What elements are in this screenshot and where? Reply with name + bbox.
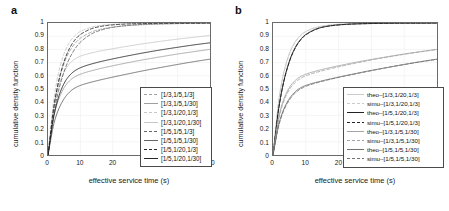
legend-label: simu–[1/3,1/5,1/30] xyxy=(366,136,420,145)
legend-line-swatch xyxy=(143,154,160,163)
y-tick-label: 0.8 xyxy=(22,45,44,52)
y-tick-label: 0 xyxy=(22,152,44,159)
legend-label: [1/5,1/20,1/30] xyxy=(160,154,201,163)
panel-a-x-axis-label: effective service time (s) xyxy=(47,176,211,185)
y-tick-label: 0.4 xyxy=(247,98,269,105)
legend-line-swatch xyxy=(346,127,366,136)
legend-line-swatch xyxy=(143,136,160,145)
legend-entry[interactable]: [1/3,1/20,1/3] xyxy=(143,108,208,117)
legend-label: theo–[1/3,1/5,1/30] xyxy=(366,127,419,136)
x-tick-label: 0 xyxy=(39,159,55,166)
legend-label: simu–[1/3,1/20,1/3] xyxy=(366,99,420,108)
legend-entry[interactable]: [1/5,1/5,1/3] xyxy=(143,127,208,136)
legend-entry[interactable]: simu–[1/5,1/5,1/30] xyxy=(346,154,440,163)
legend-label: [1/3,1/20,1/30] xyxy=(160,118,201,127)
legend-label: theo–[1/5,1/5,1/30] xyxy=(366,145,419,154)
legend-line-swatch xyxy=(346,118,366,127)
y-tick-label: 0.8 xyxy=(247,45,269,52)
legend-label: theo–[1/5,1/20,1/3] xyxy=(366,108,419,117)
y-tick-label: 0 xyxy=(247,152,269,159)
y-tick-label: 0.1 xyxy=(22,139,44,146)
legend-entry[interactable]: simu–[1/5,1/20,1/3] xyxy=(346,118,440,127)
legend-label: [1/5,1/5,1/30] xyxy=(160,136,198,145)
legend-label: [1/5,1/5,1/3] xyxy=(160,127,194,136)
y-tick-label: 0.4 xyxy=(22,98,44,105)
legend-entry[interactable]: [1/5,1/20,1/3] xyxy=(143,145,208,154)
y-tick-label: 0.6 xyxy=(247,72,269,79)
legend-line-swatch xyxy=(346,154,366,163)
figure-cdf-comparison: a cumulative density function 00.10.20.3… xyxy=(0,0,449,211)
panel-a-label: a xyxy=(11,4,17,16)
y-tick-label: 0.1 xyxy=(247,139,269,146)
legend-label: simu–[1/5,1/5,1/30] xyxy=(366,154,420,163)
y-tick-label: 0.9 xyxy=(247,31,269,38)
legend-entry[interactable]: [1/5,1/20,1/30] xyxy=(143,154,208,163)
legend-entry[interactable]: theo–[1/5,1/20,1/3] xyxy=(346,108,440,117)
legend-line-swatch xyxy=(143,145,160,154)
legend-entry[interactable]: [1/3,1/20,1/30] xyxy=(143,118,208,127)
panel-b-label: b xyxy=(235,4,242,16)
legend-line-swatch xyxy=(143,90,160,99)
legend-label: [1/3,1/5,1/30] xyxy=(160,99,198,108)
y-tick-label: 0.3 xyxy=(247,112,269,119)
y-tick-label: 0.6 xyxy=(22,72,44,79)
y-tick-label: 0.9 xyxy=(22,31,44,38)
x-tick-label: 20 xyxy=(105,159,121,166)
y-tick-label: 0.2 xyxy=(22,125,44,132)
legend-entry[interactable]: theo–[1/3,1/5,1/30] xyxy=(346,127,440,136)
panel-a-legend: [1/3,1/5,1/3][1/3,1/5,1/30][1/3,1/20,1/3… xyxy=(140,87,212,167)
panel-b: b cumulative density function 00.10.20.3… xyxy=(225,0,449,211)
panel-b-legend: theo–[1/3,1/20,1/3]simu–[1/3,1/20,1/3]th… xyxy=(343,87,444,168)
legend-entry[interactable]: simu–[1/3,1/20,1/3] xyxy=(346,99,440,108)
legend-label: [1/5,1/20,1/3] xyxy=(160,145,198,154)
x-tick-label: 0 xyxy=(264,159,280,166)
panel-b-x-axis-label: effective service time (s) xyxy=(272,176,438,185)
y-tick-label: 0.5 xyxy=(247,85,269,92)
legend-line-swatch xyxy=(143,99,160,108)
legend-label: [1/3,1/5,1/3] xyxy=(160,90,194,99)
y-tick-label: 0.7 xyxy=(247,58,269,65)
y-tick-label: 0.2 xyxy=(247,125,269,132)
x-tick-label: 10 xyxy=(72,159,88,166)
y-tick-label: 1 xyxy=(247,18,269,25)
legend-entry[interactable]: theo–[1/3,1/20,1/3] xyxy=(346,90,440,99)
legend-line-swatch xyxy=(346,108,366,117)
legend-label: simu–[1/5,1/20,1/3] xyxy=(366,118,420,127)
legend-line-swatch xyxy=(346,145,366,154)
legend-label: theo–[1/3,1/20,1/3] xyxy=(366,90,419,99)
legend-entry[interactable]: simu–[1/3,1/5,1/30] xyxy=(346,136,440,145)
panel-b-y-axis-label: cumulative density function xyxy=(236,61,245,147)
y-tick-label: 0.3 xyxy=(22,112,44,119)
y-tick-label: 1 xyxy=(22,18,44,25)
legend-line-swatch xyxy=(346,99,366,108)
legend-label: [1/3,1/20,1/3] xyxy=(160,108,198,117)
legend-entry[interactable]: [1/3,1/5,1/3] xyxy=(143,90,208,99)
y-tick-label: 0.7 xyxy=(22,58,44,65)
panel-a-y-axis-label: cumulative density function xyxy=(11,61,20,147)
legend-entry[interactable]: [1/5,1/5,1/30] xyxy=(143,136,208,145)
legend-entry[interactable]: [1/3,1/5,1/30] xyxy=(143,99,208,108)
legend-line-swatch xyxy=(143,127,160,136)
legend-line-swatch xyxy=(143,118,160,127)
legend-line-swatch xyxy=(143,108,160,117)
panel-a: a cumulative density function 00.10.20.3… xyxy=(0,0,224,211)
x-tick-label: 10 xyxy=(297,159,313,166)
y-tick-label: 0.5 xyxy=(22,85,44,92)
legend-line-swatch xyxy=(346,136,366,145)
legend-line-swatch xyxy=(346,90,366,99)
legend-entry[interactable]: theo–[1/5,1/5,1/30] xyxy=(346,145,440,154)
